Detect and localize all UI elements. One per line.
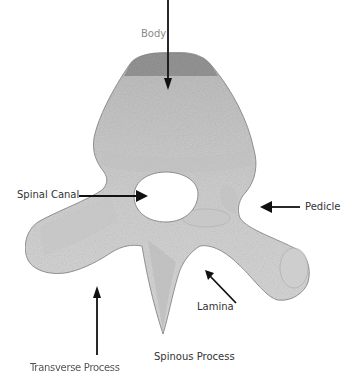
label-lamina: Lamina bbox=[197, 301, 234, 312]
label-spinal-canal: Spinal Canal bbox=[17, 189, 79, 200]
label-body: Body bbox=[141, 28, 166, 39]
vertebra-diagram: Body Spinal Canal Pedicle Lamina Spinous… bbox=[0, 0, 353, 390]
label-pedicle: Pedicle bbox=[305, 201, 340, 212]
body-top-cap bbox=[124, 52, 218, 76]
label-spinous-process: Spinous Process bbox=[154, 351, 235, 362]
label-transverse-process: Transverse Process bbox=[30, 362, 120, 373]
